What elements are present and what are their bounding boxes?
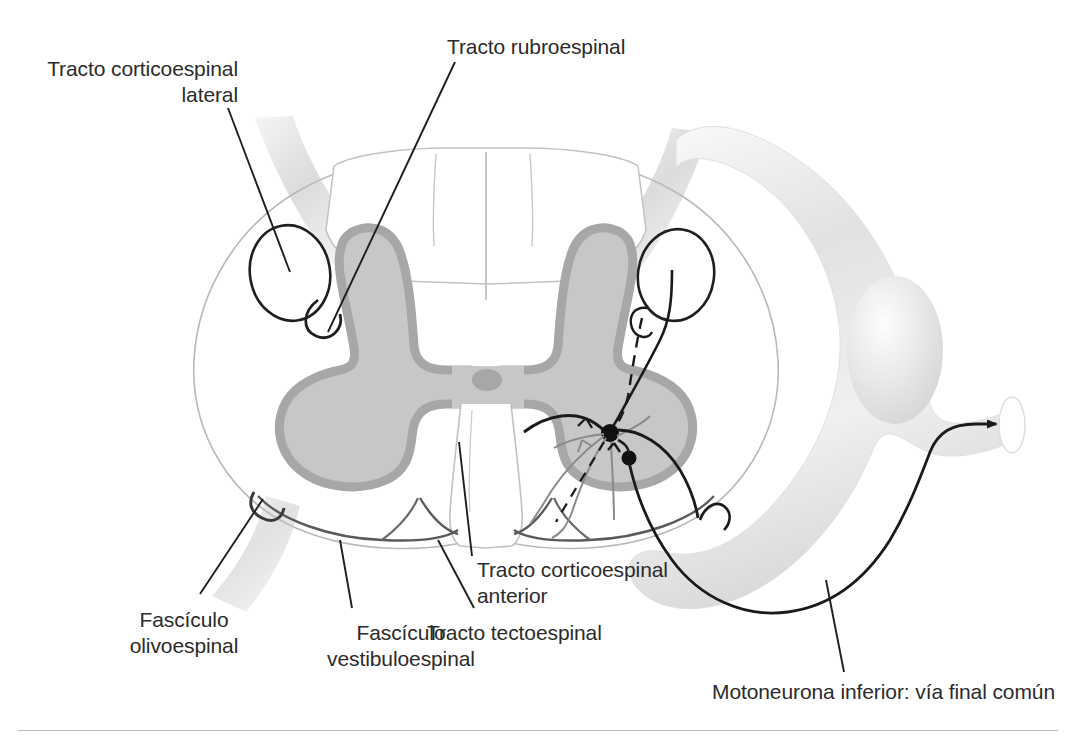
leader-tectoespinal [438, 540, 474, 608]
anterior-median-fissure [450, 404, 522, 548]
anterior-lobe-left-inner [382, 498, 418, 540]
dorsal-root-ganglion [847, 276, 943, 424]
fissure-outline [450, 404, 522, 548]
label-motoneurona-inferior: Motoneurona inferior: vía final común [712, 679, 1072, 705]
bottom-divider [18, 730, 1058, 731]
label-tracto-tectoespinal: Tracto tectoespinal [427, 620, 677, 646]
leader-vestibuloespinal [340, 540, 352, 608]
motor-neuron-soma-alpha [601, 424, 619, 442]
label-tracto-corticoespinal-anterior: Tracto corticoespinal anterior [477, 557, 737, 609]
central-canal [472, 369, 502, 391]
spinal-nerve-loop-right [629, 126, 1025, 608]
leader-motoneurona [826, 580, 844, 672]
label-tracto-corticoespinal-lateral: Tracto corticoespinal lateral [38, 56, 238, 108]
rubrospinal-left-marker [306, 300, 341, 338]
label-tracto-rubroespinal: Tracto rubroespinal [447, 34, 747, 60]
nerve-cut-end [999, 397, 1025, 453]
label-fasciculo-olivoespinal: Fascículo olivoespinal [116, 607, 252, 659]
motor-collateral-hook [700, 504, 730, 530]
